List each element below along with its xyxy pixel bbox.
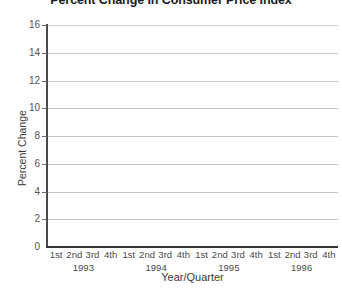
x-axis-quarter-label: 4th	[247, 250, 265, 260]
y-axis-tick	[42, 53, 47, 54]
x-axis-quarter-row: 1st2nd3rd4th	[193, 250, 266, 260]
x-axis-quarter-label: 4th	[174, 250, 192, 260]
y-axis-tick	[42, 192, 47, 193]
x-axis-year-group: 1st2nd3rd4th1996	[265, 250, 338, 273]
x-axis-quarter-label: 1st	[47, 250, 65, 260]
x-axis-year-group: 1st2nd3rd4th1994	[120, 250, 193, 273]
gridline	[47, 25, 338, 26]
x-axis-baseline	[46, 246, 338, 248]
x-axis-quarter-label: 1st	[193, 250, 211, 260]
x-axis-quarter-label: 3rd	[302, 250, 320, 260]
y-axis-tick-label: 2	[2, 214, 40, 224]
x-axis-quarter-label: 1st	[120, 250, 138, 260]
x-axis-year-group: 1st2nd3rd4th1995	[193, 250, 266, 273]
x-axis-quarter-row: 1st2nd3rd4th	[47, 250, 120, 260]
x-axis-quarter-row: 1st2nd3rd4th	[120, 250, 193, 260]
y-axis-tick	[42, 164, 47, 165]
gridline	[47, 219, 338, 220]
x-axis-quarter-label: 3rd	[229, 250, 247, 260]
x-axis-quarter-label: 2nd	[211, 250, 229, 260]
y-axis-tick	[42, 25, 47, 26]
gridline	[47, 108, 338, 109]
y-axis-tick-label: 6	[2, 159, 40, 169]
y-axis-tick-label: 14	[2, 48, 40, 58]
x-axis-year-group: 1st2nd3rd4th1993	[47, 250, 120, 273]
x-axis-quarter-label: 4th	[102, 250, 120, 260]
y-axis-tick-label: 12	[2, 76, 40, 86]
x-axis-quarter-label: 2nd	[138, 250, 156, 260]
x-axis-quarter-label: 4th	[320, 250, 338, 260]
x-axis-quarter-label: 3rd	[156, 250, 174, 260]
y-axis-tick-labels: 1614121086420	[0, 0, 40, 288]
y-axis-tick-label: 8	[2, 131, 40, 141]
y-axis-tick	[42, 136, 47, 137]
chart-title: Percent Change in Consumer Price Index	[0, 0, 342, 7]
y-axis-tick-label: 16	[2, 20, 40, 30]
y-axis-tick-label: 10	[2, 103, 40, 113]
y-axis-tick	[42, 108, 47, 109]
gridline	[47, 53, 338, 54]
y-axis-tick	[42, 81, 47, 82]
x-axis-quarter-label: 2nd	[283, 250, 301, 260]
x-axis-title: Year/Quarter	[47, 271, 338, 283]
chart-container: Percent Change in Consumer Price Index P…	[0, 0, 342, 288]
x-axis-quarter-row: 1st2nd3rd4th	[265, 250, 338, 260]
plot-area	[47, 25, 338, 247]
x-axis-quarter-label: 2nd	[65, 250, 83, 260]
gridline	[47, 192, 338, 193]
y-axis-tick	[42, 219, 47, 220]
gridline	[47, 81, 338, 82]
gridline	[47, 164, 338, 165]
x-axis-quarter-label: 3rd	[83, 250, 101, 260]
gridline	[47, 136, 338, 137]
y-axis-tick-label: 4	[2, 187, 40, 197]
y-axis-tick-label: 0	[2, 242, 40, 252]
x-axis-quarter-label: 1st	[265, 250, 283, 260]
